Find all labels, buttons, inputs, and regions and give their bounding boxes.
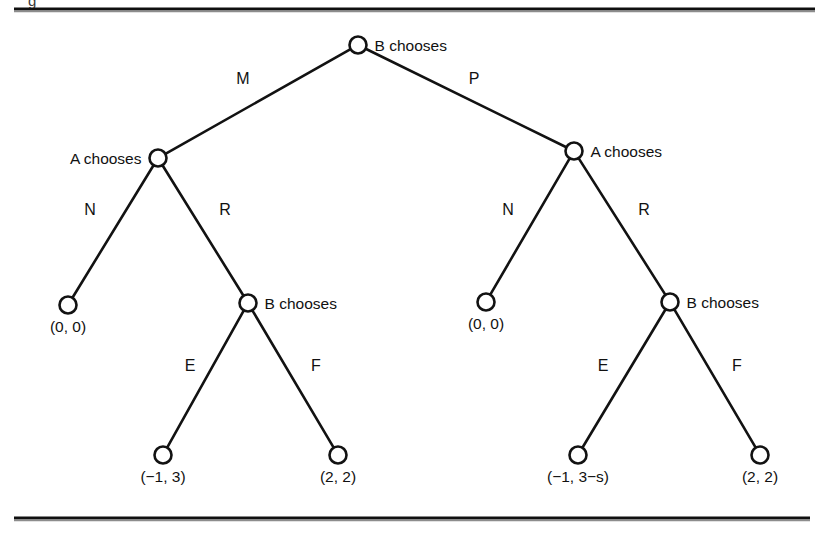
edge-layer (72, 49, 755, 448)
node-label-b_left: B chooses (265, 295, 338, 312)
branch-label-e_aright_n: N (502, 201, 514, 218)
tree-node-leaf_left_f[interactable] (330, 447, 347, 464)
branch-label-e_root_p: P (469, 70, 480, 87)
tree-branch-e-e_bleft_e (167, 310, 244, 447)
tree-node-b_right[interactable] (662, 294, 679, 311)
top-horizontal-rule (14, 9, 815, 12)
tree-node-a_right[interactable] (566, 143, 583, 160)
node-label-layer: B choosesA choosesA chooses(0, 0)B choos… (50, 37, 778, 485)
branch-label-e_aleft_n: N (84, 201, 96, 218)
edge-label-layer: MPNRNREFEF (84, 70, 742, 374)
payoff-label-leaf_left_f: (2, 2) (320, 468, 356, 485)
tree-branch-p-e_root_p (366, 49, 567, 148)
tree-node-root[interactable] (350, 37, 367, 54)
tree-branch-e-e_bright_e (582, 309, 665, 447)
branch-label-e_aright_r: R (638, 201, 650, 218)
tree-branch-n-e_aleft_n (72, 165, 153, 298)
branch-label-e_bleft_f: F (311, 357, 321, 374)
tree-node-leaf_left_n[interactable] (60, 297, 77, 314)
branch-label-e_aleft_r: R (219, 201, 231, 218)
payoff-label-leaf_left_n: (0, 0) (50, 318, 86, 335)
tree-node-leaf_right_n[interactable] (478, 294, 495, 311)
tree-branch-r-e_aright_r (579, 158, 666, 295)
payoff-label-leaf_right_f: (2, 2) (742, 468, 778, 485)
node-layer (60, 37, 769, 464)
tree-branch-f-e_bright_f (674, 309, 755, 447)
node-label-a_right: A chooses (591, 143, 663, 160)
branch-label-e_root_m: M (236, 70, 249, 87)
game-tree-diagram: g MPNRNREFEF B choosesA choosesA chooses… (0, 0, 827, 533)
payoff-label-leaf_right_n: (0, 0) (468, 315, 504, 332)
tree-node-leaf_right_e[interactable] (570, 447, 587, 464)
branch-label-e_bleft_e: E (185, 357, 196, 374)
branch-label-e_bright_f: F (732, 357, 742, 374)
tree-node-a_left[interactable] (150, 150, 167, 167)
tree-branch-n-e_aright_n (490, 158, 569, 294)
node-label-root: B chooses (375, 37, 448, 54)
payoff-label-leaf_right_e: (−1, 3−s) (547, 468, 609, 485)
branch-label-e_bright_e: E (598, 357, 609, 374)
payoff-label-leaf_left_e: (−1, 3) (140, 468, 185, 485)
tree-branch-m-e_root_m (165, 49, 350, 154)
tree-node-leaf_right_f[interactable] (752, 447, 769, 464)
tree-branch-f-e_bleft_f (252, 310, 333, 447)
bottom-horizontal-rule (14, 518, 810, 521)
node-label-b_right: B chooses (687, 294, 760, 311)
node-label-a_left: A chooses (70, 150, 142, 167)
tree-branch-r-e_aleft_r (162, 165, 243, 296)
tree-node-leaf_left_e[interactable] (155, 447, 172, 464)
figure-root: g MPNRNREFEF B choosesA choosesA chooses… (0, 0, 827, 533)
tree-node-b_left[interactable] (240, 295, 257, 312)
